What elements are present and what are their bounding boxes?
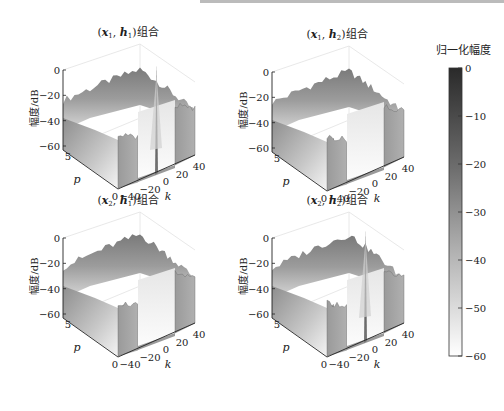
p-axis-label: p bbox=[73, 341, 80, 354]
p-tick-label: 5 bbox=[274, 319, 280, 330]
p-tick-label: 5 bbox=[65, 319, 71, 330]
subplot-x2h1: (x2, h1)组合0−20−40−60幅度/dB50p−40−2002040k bbox=[28, 193, 205, 371]
k-tick-label: 0 bbox=[163, 344, 169, 355]
z-tick-label: −40 bbox=[248, 118, 269, 129]
surface-left-stopband bbox=[327, 300, 347, 356]
colorbar-tick-label: −20 bbox=[465, 159, 486, 170]
subplot-x1h2: (x1, h2)组合0−20−40−60幅度/dB50p−40−2002040k bbox=[237, 27, 414, 205]
z-tick-label: 0 bbox=[263, 67, 269, 78]
z-tick-label: −20 bbox=[39, 258, 60, 269]
p-axis-label: p bbox=[282, 175, 289, 188]
k-tick-label: 40 bbox=[402, 163, 415, 174]
k-axis-label: k bbox=[374, 192, 381, 205]
k-axis-label: k bbox=[165, 190, 172, 203]
z-tick-label: −60 bbox=[39, 309, 60, 320]
k-tick-label: −40 bbox=[328, 359, 349, 370]
z-axis-label: 幅度/dB bbox=[237, 91, 249, 128]
p-tick-label: 5 bbox=[274, 153, 280, 164]
z-tick-label: 0 bbox=[54, 65, 60, 76]
surface-left-stopband bbox=[327, 135, 347, 190]
subplot-x2h2: (x2, h2)组合0−20−40−60幅度/dB50p−40−2002040k bbox=[237, 193, 414, 371]
surface-right-stopband bbox=[384, 271, 404, 333]
surface-left-slope bbox=[272, 120, 327, 190]
p-tick-label: 0 bbox=[321, 359, 327, 370]
subplot-x1h1: (x1, h1)组合0−20−40−60幅度/dB50p−40−2002040k bbox=[28, 25, 205, 203]
k-tick-label: 0 bbox=[372, 178, 378, 189]
colorbar-tick-label: −60 bbox=[465, 351, 486, 362]
k-tick-label: −20 bbox=[139, 352, 160, 363]
p-tick-label: 0 bbox=[112, 359, 118, 370]
surface-left-stopband bbox=[118, 302, 138, 356]
z-tick-label: −20 bbox=[248, 92, 269, 103]
k-tick-label: 40 bbox=[402, 329, 415, 340]
z-axis-label: 幅度/dB bbox=[28, 257, 40, 294]
z-axis-label: 幅度/dB bbox=[28, 89, 40, 126]
p-tick-label: 5 bbox=[65, 151, 71, 162]
k-tick-label: −40 bbox=[119, 359, 140, 370]
surface-left-slope bbox=[63, 118, 118, 188]
z-tick-label: −20 bbox=[248, 258, 269, 269]
k-tick-label: −20 bbox=[348, 352, 369, 363]
p-axis-label: p bbox=[282, 341, 289, 354]
k-axis-label: k bbox=[374, 358, 381, 371]
colorbar-tick-label: 0 bbox=[465, 63, 471, 74]
subplot-title: (x1, h1)组合 bbox=[97, 25, 158, 40]
z-tick-label: −20 bbox=[39, 90, 60, 101]
colorbar-tick-label: −50 bbox=[465, 303, 486, 314]
z-tick-label: −40 bbox=[248, 284, 269, 295]
z-tick-label: −60 bbox=[248, 309, 269, 320]
p-axis-label: p bbox=[73, 173, 80, 186]
k-tick-label: 20 bbox=[176, 169, 189, 180]
surface-left-stopband bbox=[118, 134, 138, 189]
k-tick-label: 0 bbox=[163, 176, 169, 187]
k-tick-label: 40 bbox=[193, 161, 206, 172]
colorbar-tick-label: −40 bbox=[465, 255, 486, 266]
k-axis-label: k bbox=[165, 358, 172, 371]
surface-right-stopband bbox=[384, 105, 404, 167]
colorbar-tick-label: −10 bbox=[465, 111, 486, 122]
z-tick-label: −60 bbox=[248, 143, 269, 154]
z-tick-label: −60 bbox=[39, 141, 60, 152]
z-tick-label: −40 bbox=[39, 284, 60, 295]
subplot-title: (x1, h2)组合 bbox=[306, 27, 367, 42]
z-axis-label: 幅度/dB bbox=[237, 257, 249, 294]
figure: (x1, h1)组合0−20−40−60幅度/dB50p−40−2002040k… bbox=[0, 0, 504, 411]
k-tick-label: 20 bbox=[176, 337, 189, 348]
colorbar-title: 归一化幅度 bbox=[436, 43, 491, 57]
surface-left-slope bbox=[272, 286, 327, 356]
k-tick-label: 20 bbox=[385, 337, 398, 348]
z-tick-label: 0 bbox=[263, 233, 269, 244]
surface-left-slope bbox=[63, 286, 118, 356]
k-tick-label: 40 bbox=[193, 329, 206, 340]
z-tick-label: 0 bbox=[54, 233, 60, 244]
k-tick-label: 0 bbox=[372, 344, 378, 355]
k-tick-label: 20 bbox=[385, 171, 398, 182]
surface-right-stopband bbox=[175, 103, 195, 165]
z-tick-label: −40 bbox=[39, 116, 60, 127]
colorbar: 归一化幅度 0−10−20−30−40−50−60 bbox=[436, 43, 491, 362]
surface-right-stopband bbox=[175, 271, 195, 334]
colorbar-tick-label: −30 bbox=[465, 207, 486, 218]
